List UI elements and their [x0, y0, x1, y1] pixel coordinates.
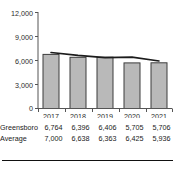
- x-tick-label: 2021: [151, 112, 167, 118]
- row-label-greensboro: Greensboro: [0, 122, 40, 133]
- bar-2020: [124, 63, 140, 109]
- x-axis-tick-labels: 2017 2018 2019 2020 2021: [43, 112, 167, 118]
- cell-greensboro-2017: 6,764: [40, 122, 67, 133]
- bar-2019: [97, 57, 113, 108]
- bar-2017: [43, 54, 59, 108]
- cell-average-2017: 7,000: [40, 133, 67, 144]
- cell-greensboro-2018: 6,396: [67, 122, 94, 133]
- combo-bar-line-chart: 12,000 9,000 6,000 3,000 0: [0, 0, 175, 118]
- row-label-average: Average: [0, 133, 40, 144]
- x-tick-label: 2019: [97, 112, 113, 118]
- x-tick-label: 2018: [70, 112, 86, 118]
- x-tick-label: 2017: [43, 112, 59, 118]
- cell-average-2018: 6,638: [67, 133, 94, 144]
- chart-figure: 12,000 9,000 6,000 3,000 0: [0, 0, 175, 170]
- cell-average-2021: 5,936: [148, 133, 175, 144]
- bar-2021: [151, 63, 167, 109]
- plot-area: 12,000 9,000 6,000 3,000 0: [0, 0, 175, 118]
- x-tick-label: 2020: [124, 112, 140, 118]
- cell-greensboro-2020: 5,705: [121, 122, 148, 133]
- y-tick-label: 9,000: [15, 33, 33, 42]
- cell-average-2020: 6,425: [121, 133, 148, 144]
- y-tick-label: 12,000: [11, 9, 33, 18]
- y-tick-label: 3,000: [15, 81, 33, 90]
- cell-greensboro-2021: 5,706: [148, 122, 175, 133]
- table-row: Greensboro 6,764 6,396 6,406 5,705 5,706: [0, 122, 175, 133]
- y-tick-label: 6,000: [15, 57, 33, 66]
- y-tick-label: 0: [29, 104, 33, 113]
- cell-average-2019: 6,363: [94, 133, 121, 144]
- bar-2018: [70, 57, 86, 108]
- cell-greensboro-2019: 6,406: [94, 122, 121, 133]
- bottom-divider: [2, 160, 173, 161]
- bar-series-greensboro: [43, 54, 167, 108]
- y-axis-tick-labels: 12,000 9,000 6,000 3,000 0: [11, 9, 33, 113]
- chart-data-table: Greensboro 6,764 6,396 6,406 5,705 5,706…: [0, 122, 175, 144]
- table-row: Average 7,000 6,638 6,363 6,425 5,936: [0, 133, 175, 144]
